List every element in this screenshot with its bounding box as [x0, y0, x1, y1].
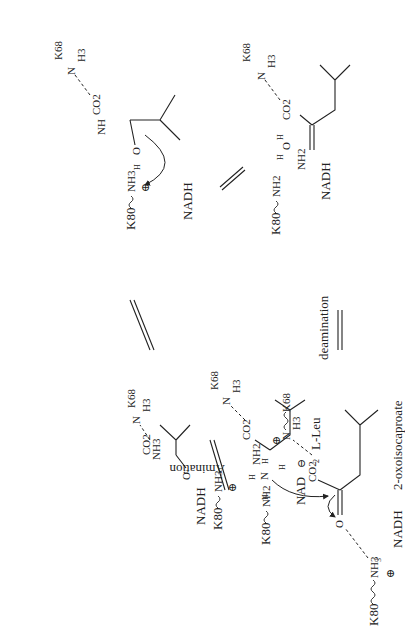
s2-k80-nh3: NH3	[212, 470, 224, 492]
s4-iminium: NH2	[295, 149, 307, 170]
s3-k68-h3: H3	[75, 48, 87, 62]
s1-skeleton	[318, 410, 378, 490]
deamination-equilibrium: deamination	[316, 295, 342, 360]
s1-co2-minus: ⊖	[295, 459, 307, 468]
s1-nh3-n: N	[258, 472, 270, 480]
s3-k80-plus: ⊕	[139, 183, 151, 192]
s5-k80-label: K80	[258, 523, 273, 545]
s1-k80-sub3: 3	[374, 558, 383, 562]
s5-nad: NAD	[293, 477, 308, 505]
reaction-scheme-svg: K80 NH3 3 ⊕ O CO2 2 ⊖ N ⊕ H3	[0, 0, 405, 640]
s3-amine: NH	[95, 119, 107, 135]
deamination-arrows	[338, 310, 342, 350]
s3-arrow	[145, 135, 165, 185]
s3-k68-n: N	[65, 67, 77, 75]
step-2-carbinolamine-alkoxide: K80 NH3 ⊕ NADH O NH3 CO2 N H3 K68	[125, 389, 238, 530]
s5-hbond-k68	[230, 405, 245, 420]
s3-skeleton	[130, 95, 180, 145]
s2-s3-equilibrium-arrows	[130, 300, 154, 350]
s4-k80-nh2: NH2	[270, 176, 282, 197]
s1-co2-sub: 2	[312, 459, 321, 463]
s5-amine: NH2	[250, 444, 262, 465]
s1-nh3-h2: H	[248, 474, 257, 480]
step-4-iminium: K80 NH2 NADH H O H NH2 CO2 N H3 K68	[240, 43, 350, 235]
s3-co2: CO2	[90, 94, 102, 115]
s3-k80-chain	[129, 196, 133, 208]
s1-k68-h3: H3	[290, 416, 302, 430]
diagram-frame: K80 NH3 3 ⊕ O CO2 2 ⊖ N ⊕ H3	[0, 0, 405, 640]
s4-k68-h3: H3	[265, 54, 277, 68]
s2-alkoxide-o: O	[180, 472, 192, 480]
s4-hbond-k68	[265, 80, 280, 100]
s1-nh3-h3: H	[261, 458, 270, 464]
s5-k80-nh2: NH2	[260, 486, 272, 507]
s4-k80-chain	[274, 201, 278, 213]
s3-hbond-k68	[75, 75, 90, 95]
s1-k68-label: K68	[280, 393, 292, 412]
s2-nadh: NADH	[193, 487, 208, 525]
s4-nadh: NADH	[318, 162, 333, 200]
s4-k80-label: K80	[268, 213, 283, 235]
s1-carbonyl-o: O	[333, 520, 345, 528]
s2-k80-label: K80	[210, 508, 225, 530]
s3-k80-label: K80	[123, 208, 138, 230]
s5-k68-n: N	[220, 397, 232, 405]
s1-c-o-double-bond	[338, 490, 342, 515]
s2-skeleton	[160, 425, 190, 468]
s4-skeleton	[300, 65, 350, 150]
s2-k68-n: N	[130, 416, 142, 424]
s1-substrate-name: 2-oxoisocaproate	[390, 400, 405, 490]
s1-k68-plus: ⊕	[270, 436, 282, 445]
s5-product-name: L-Leu	[308, 417, 323, 450]
s4-k68-label: K68	[240, 43, 252, 62]
s1-k80-label: K80	[366, 604, 381, 626]
s4-k68-n: N	[255, 72, 267, 80]
s3-k68-label: K68	[52, 41, 64, 60]
s3-oh-h: H	[133, 164, 142, 170]
s5-k68-h3: H3	[230, 379, 242, 393]
s5-k80-chain	[264, 511, 268, 523]
s5-co2: CO2	[240, 419, 252, 440]
s3-s4-equilibrium-arrows	[220, 167, 245, 190]
s1-arrow-o	[328, 495, 335, 517]
s3-k80-nh3: NH3	[125, 170, 137, 192]
s1-nadh: NADH	[390, 510, 405, 548]
s2-co2: CO2	[140, 434, 152, 455]
s2-k80-chain	[216, 496, 220, 508]
s1-k68-chain	[284, 412, 288, 430]
s1-k80-chain	[371, 580, 375, 604]
s4-water-h1: H	[276, 154, 285, 160]
reaction-scheme-rotated: K80 NH3 3 ⊕ O CO2 2 ⊖ N ⊕ H3	[0, 0, 405, 640]
s4-co2: CO2	[280, 99, 292, 120]
s3-oh-o: O	[130, 147, 142, 155]
s5-k68-label: K68	[208, 371, 220, 390]
deamination-label: deamination	[316, 295, 331, 360]
s2-k68-h3: H3	[140, 398, 152, 412]
s1-hbond-k80	[345, 528, 368, 558]
s5-alpha-h: H	[278, 464, 287, 470]
step-3-carbinolamine: K80 NH3 ⊕ NADH H O NH CO2 N H3 K68	[52, 41, 195, 230]
step-1-substrate-complex: K80 NH3 3 ⊕ O CO2 2 ⊖ N ⊕ H3	[248, 393, 405, 626]
s1-k80-plus: ⊕	[384, 569, 396, 578]
s3-nadh: NADH	[180, 182, 195, 220]
s2-k68-label: K68	[125, 389, 137, 408]
s2-k80-plus: ⊕	[226, 483, 238, 492]
s4-water-h2: H	[276, 134, 285, 140]
s4-water-o: O	[280, 142, 292, 150]
